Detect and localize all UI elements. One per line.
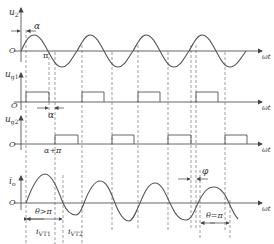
io-axis-label: io: [9, 177, 16, 187]
wt-label-io: ωt: [262, 206, 271, 213]
phi-label: φ: [202, 167, 208, 176]
ivt1-label: iVT1: [36, 228, 51, 237]
u2-axis-label: u2: [9, 8, 19, 18]
origin-label-ug2: O: [9, 141, 16, 149]
ug1-axis-label: ug1: [5, 70, 18, 80]
origin-label-u2: O: [9, 47, 16, 55]
theta-eq-pi-label: θ=π: [206, 212, 223, 220]
theta-gt-pi-label: θ>π: [35, 208, 52, 216]
alpha-label-mid: α: [48, 111, 54, 120]
wt-label-ug2: ωt: [262, 147, 271, 154]
alpha-plus-pi-label: α+π: [44, 147, 61, 155]
pi-label: π: [43, 52, 48, 60]
ivt2-label: iVT2: [68, 228, 83, 237]
wt-label-u2: ωt: [262, 54, 271, 61]
alpha-label-top: α: [34, 22, 40, 31]
origin-label-ug1: O: [11, 102, 18, 110]
ug2-axis-label: ug2: [5, 115, 18, 125]
origin-label-io: O: [9, 199, 16, 207]
dashed-guides: [26, 30, 230, 244]
wt-label-ug1: ωt: [262, 105, 271, 112]
